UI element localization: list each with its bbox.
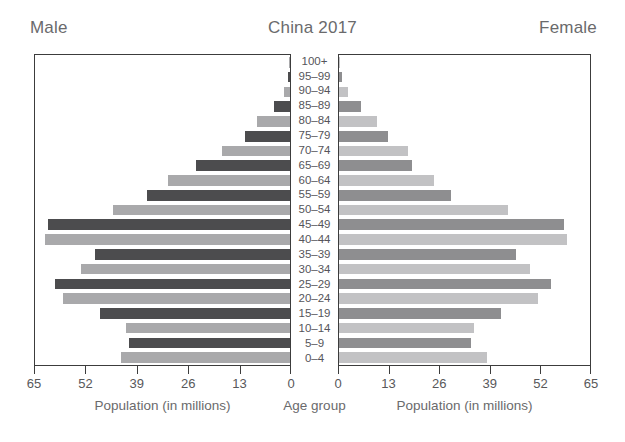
male-bar-rows <box>35 55 290 365</box>
bar-male-70-74 <box>222 146 290 157</box>
bar-female-60-64 <box>339 175 434 186</box>
axis-tick-label-26: 26 <box>181 376 195 391</box>
axis-tick <box>137 366 138 374</box>
age-group-label-85-89: 85–89 <box>291 99 338 114</box>
bar-row <box>339 173 590 188</box>
bar-female-50-54 <box>339 205 508 216</box>
axis-tick <box>540 366 541 374</box>
age-group-label-65-69: 65–69 <box>291 158 338 173</box>
age-group-label-80-84: 80–84 <box>291 113 338 128</box>
bar-row <box>339 188 590 203</box>
male-plot-panel <box>34 54 291 366</box>
bar-male-80-84 <box>257 116 290 127</box>
age-group-label-40-44: 40–44 <box>291 232 338 247</box>
bar-male-35-39 <box>95 249 290 260</box>
bar-row <box>339 291 590 306</box>
bar-row <box>35 232 290 247</box>
bar-row <box>35 291 290 306</box>
bar-male-85-89 <box>274 101 290 112</box>
female-bar-rows <box>339 55 590 365</box>
axis-tick <box>34 366 35 374</box>
bar-row <box>35 99 290 114</box>
bar-male-10-14 <box>126 323 290 334</box>
bar-row <box>35 217 290 232</box>
bar-male-15-19 <box>100 308 290 319</box>
bar-male-55-59 <box>147 190 290 201</box>
bar-row <box>339 336 590 351</box>
bar-row <box>339 70 590 85</box>
axis-tick <box>389 366 390 374</box>
bar-female-30-34 <box>339 264 530 275</box>
bar-male-60-64 <box>168 175 290 186</box>
axis-tick-label-52: 52 <box>78 376 92 391</box>
female-side-label: Female <box>539 18 597 38</box>
bar-row <box>339 262 590 277</box>
bar-row <box>35 55 290 70</box>
bar-row <box>339 306 590 321</box>
axis-tick <box>240 366 241 374</box>
bar-row <box>339 55 590 70</box>
male-axis-tick-labels: 65523926130 <box>34 376 291 394</box>
female-axis-tick-labels: 01326395265 <box>338 376 591 394</box>
bar-row <box>35 262 290 277</box>
bar-row <box>339 158 590 173</box>
bar-row <box>339 114 590 129</box>
bar-female-95-99 <box>339 72 342 83</box>
bar-female-25-29 <box>339 279 551 290</box>
bar-row <box>35 70 290 85</box>
age-group-label-95-99: 95–99 <box>291 69 338 84</box>
bar-female-15-19 <box>339 308 501 319</box>
age-group-label-20-24: 20–24 <box>291 292 338 307</box>
age-group-label-35-39: 35–39 <box>291 247 338 262</box>
age-group-label-10-14: 10–14 <box>291 321 338 336</box>
bar-female-0-4 <box>339 352 487 363</box>
bar-row <box>35 129 290 144</box>
bar-female-45-49 <box>339 219 564 230</box>
bar-male-90-94 <box>284 87 290 98</box>
chart-title: China 2017 <box>0 18 625 38</box>
bar-row <box>339 232 590 247</box>
bar-female-20-24 <box>339 293 538 304</box>
bar-male-0-4 <box>121 352 290 363</box>
female-axis-ticks <box>338 366 591 376</box>
bar-female-85-89 <box>339 101 361 112</box>
axis-tick-label-0: 0 <box>334 376 341 391</box>
bar-female-35-39 <box>339 249 516 260</box>
female-plot-panel <box>338 54 591 366</box>
axis-tick <box>490 366 491 374</box>
bar-male-75-79 <box>245 131 290 142</box>
age-group-label-15-19: 15–19 <box>291 307 338 322</box>
bar-row <box>35 321 290 336</box>
bar-male-30-34 <box>81 264 290 275</box>
bar-male-5-9 <box>129 338 290 349</box>
axis-tick-label-39: 39 <box>130 376 144 391</box>
bar-row <box>35 114 290 129</box>
bar-row <box>35 203 290 218</box>
bar-row <box>339 276 590 291</box>
age-group-label-25-29: 25–29 <box>291 277 338 292</box>
bar-female-40-44 <box>339 234 567 245</box>
axis-tick <box>188 366 189 374</box>
bar-row <box>35 306 290 321</box>
axis-tick <box>439 366 440 374</box>
age-group-label-60-64: 60–64 <box>291 173 338 188</box>
bar-female-100+ <box>339 57 340 68</box>
bar-row <box>339 144 590 159</box>
bar-male-95-99 <box>288 72 290 83</box>
bar-row <box>35 158 290 173</box>
bar-male-45-49 <box>48 219 290 230</box>
bar-male-40-44 <box>45 234 290 245</box>
population-pyramid-chart: Male China 2017 Female 100+95–9990–9485–… <box>0 0 625 442</box>
age-group-label-45-49: 45–49 <box>291 217 338 232</box>
bar-female-80-84 <box>339 116 377 127</box>
age-group-label-50-54: 50–54 <box>291 203 338 218</box>
axis-tick <box>338 366 339 374</box>
age-group-label-70-74: 70–74 <box>291 143 338 158</box>
axis-tick <box>290 366 291 374</box>
bar-row <box>35 188 290 203</box>
age-group-label-90-94: 90–94 <box>291 84 338 99</box>
age-group-label-100+: 100+ <box>291 54 338 69</box>
bar-row <box>339 85 590 100</box>
bar-female-10-14 <box>339 323 474 334</box>
axis-tick <box>85 366 86 374</box>
